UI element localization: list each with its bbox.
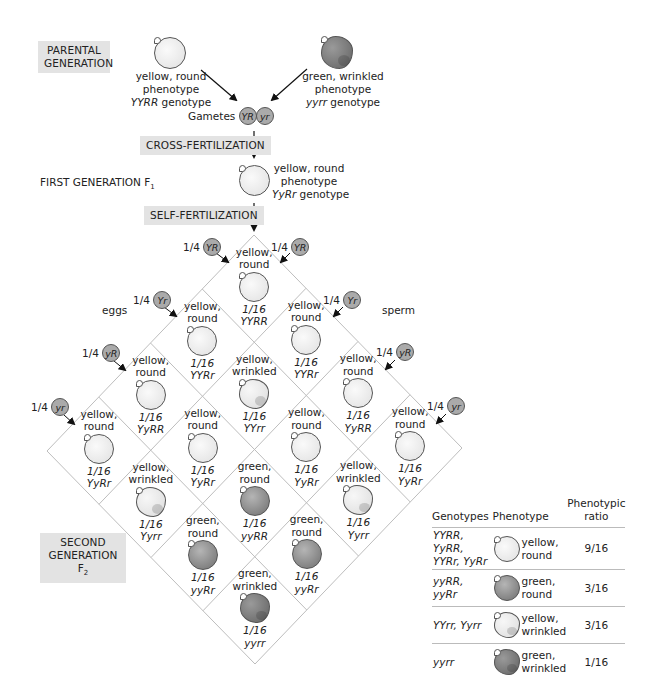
header-genotypes: Genotypes bbox=[432, 497, 489, 528]
pea-yr-icon bbox=[343, 378, 373, 408]
cell-phenotype-line1: green, bbox=[210, 460, 300, 473]
pea-yw-icon bbox=[494, 612, 520, 638]
gametes-label: Gametes bbox=[188, 110, 235, 122]
cell-phenotype-line2: round bbox=[209, 258, 299, 271]
parental-generation-label: PARENTAL GENERATION bbox=[38, 41, 110, 73]
pea-gr-icon bbox=[494, 575, 520, 601]
pea-yw-icon bbox=[343, 485, 373, 515]
f1-description: yellow, round phenotype YyRr genotype bbox=[272, 162, 346, 201]
gamete-yr: yr bbox=[256, 107, 274, 125]
pea-yr-icon bbox=[494, 536, 520, 562]
pea-yr-icon bbox=[239, 272, 269, 302]
f1-genotype: YyRr bbox=[272, 188, 296, 200]
cell-phenotype-line2: wrinkled bbox=[106, 473, 196, 486]
cell-phenotype-line1: yellow, bbox=[106, 354, 196, 367]
first-generation-label: FIRST GENERATION F1 bbox=[38, 175, 157, 195]
pea-yr-icon bbox=[291, 432, 321, 462]
cell-phenotype-line2: wrinkled bbox=[210, 580, 300, 593]
pea-yw-icon bbox=[136, 487, 166, 517]
pea-yr-icon bbox=[188, 433, 218, 463]
left-parent-description: yellow, round phenotype YYRR genotype bbox=[118, 70, 224, 109]
row-phenotype: green,round bbox=[521, 570, 568, 607]
table-row: yyrrgreen,wrinkled1/16 bbox=[432, 644, 625, 681]
cell-phenotype-line2: round bbox=[158, 527, 248, 540]
table-header-row: Genotypes Phenotype Phenotypic ratio bbox=[432, 497, 625, 528]
cell-phenotype-line2: wrinkled bbox=[313, 472, 403, 485]
cell-phenotype-line1: yellow, bbox=[157, 300, 247, 313]
cell-phenotype-line1: yellow, bbox=[106, 461, 196, 474]
cell-phenotype-line1: yellow, bbox=[261, 299, 351, 312]
cell-fraction: 1/16 bbox=[210, 624, 300, 637]
cell-phenotype-line1: yellow, bbox=[209, 353, 299, 366]
pea-yellow-round-parent bbox=[154, 37, 186, 69]
pea-yr-icon bbox=[395, 431, 425, 461]
sperm-label: sperm bbox=[382, 304, 415, 317]
row-genotypes: YYRR, YyRR,YYRr, YyRr bbox=[432, 528, 489, 570]
cell-phenotype-line1: yellow, bbox=[209, 246, 299, 259]
row-genotypes: yyrr bbox=[432, 644, 489, 681]
cell-phenotype-line1: yellow, bbox=[313, 352, 403, 365]
right-parent-genotype: yyrr bbox=[306, 96, 327, 108]
phenotype-summary-table: Genotypes Phenotype Phenotypic ratio YYR… bbox=[432, 497, 625, 680]
cell-phenotype-line2: round bbox=[158, 419, 248, 432]
pea-gw-icon bbox=[240, 593, 270, 623]
table-row: YYRR, YyRR,YYRr, YyRryellow,round9/16 bbox=[432, 528, 625, 570]
cell-phenotype-line2: wrinkled bbox=[209, 365, 299, 378]
pea-green-wrinkled-parent bbox=[321, 36, 353, 69]
cell-phenotype-line2: round bbox=[365, 418, 455, 431]
second-generation-label: SECOND GENERATION F2 bbox=[40, 533, 126, 583]
cell-genotype: yyrr bbox=[210, 637, 300, 650]
row-phenotype: green,wrinkled bbox=[521, 644, 568, 681]
cell-phenotype-line2: round bbox=[313, 365, 403, 378]
pea-yr-icon bbox=[84, 434, 114, 464]
punnett-cell: green,wrinkled1/16yyrr bbox=[210, 567, 300, 649]
row-genotypes: yyRR, yyRr bbox=[432, 570, 489, 607]
cell-phenotype-line2: round bbox=[261, 419, 351, 432]
row-phenotype: yellow,round bbox=[521, 528, 568, 570]
pea-yr-icon bbox=[187, 326, 217, 356]
header-phenotype: Phenotype bbox=[489, 497, 568, 528]
pea-yw-icon bbox=[239, 379, 269, 409]
cell-phenotype-line2: round bbox=[54, 420, 144, 433]
pea-gw-icon bbox=[494, 649, 520, 675]
pea-gr-icon bbox=[292, 539, 322, 569]
row-ratio: 9/16 bbox=[567, 528, 625, 570]
right-parent-description: green, wrinkled phenotype yyrr genotype bbox=[300, 70, 386, 109]
row-ratio: 3/16 bbox=[567, 607, 625, 644]
gametes-row: Gametes YRyr bbox=[188, 107, 274, 125]
left-parent-genotype: YYRR bbox=[131, 96, 158, 108]
cell-phenotype-line1: green, bbox=[262, 513, 352, 526]
cell-phenotype-line1: yellow, bbox=[54, 408, 144, 421]
gamete-YR: YR bbox=[239, 107, 257, 125]
header-phenotypic-ratio: Phenotypic ratio bbox=[567, 497, 625, 528]
table-row: YYrr, Yyrryellow,wrinkled3/16 bbox=[432, 607, 625, 644]
cell-phenotype-line1: yellow, bbox=[261, 406, 351, 419]
cell-phenotype-line2: round bbox=[261, 311, 351, 324]
pea-gr-icon bbox=[188, 540, 218, 570]
self-fertilization-label: SELF-FERTILIZATION bbox=[144, 206, 264, 225]
row-phenotype: yellow,wrinkled bbox=[521, 607, 568, 644]
pea-yellow-round-f1 bbox=[239, 165, 270, 196]
table-row: yyRR, yyRrgreen,round3/16 bbox=[432, 570, 625, 607]
cell-phenotype-line2: round bbox=[106, 366, 196, 379]
cell-phenotype-line1: yellow, bbox=[365, 405, 455, 418]
cell-phenotype-line2: round bbox=[262, 526, 352, 539]
cell-phenotype-line2: round bbox=[210, 473, 300, 486]
row-genotypes: YYrr, Yyrr bbox=[432, 607, 489, 644]
cell-phenotype-line1: green, bbox=[210, 567, 300, 580]
cell-phenotype-line2: round bbox=[157, 312, 247, 325]
pea-yr-icon bbox=[291, 325, 321, 355]
cell-phenotype-line1: yellow, bbox=[158, 407, 248, 420]
row-ratio: 3/16 bbox=[567, 570, 625, 607]
pea-gr-icon bbox=[240, 486, 270, 516]
pea-yr-icon bbox=[136, 380, 166, 410]
cell-phenotype-line1: green, bbox=[158, 514, 248, 527]
cross-fertilization-label: CROSS-FERTILIZATION bbox=[140, 136, 271, 155]
eggs-label: eggs bbox=[102, 304, 127, 317]
row-ratio: 1/16 bbox=[567, 644, 625, 681]
cell-phenotype-line1: yellow, bbox=[313, 459, 403, 472]
